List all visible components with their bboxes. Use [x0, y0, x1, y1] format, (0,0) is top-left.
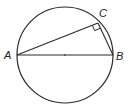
geometry-diagram: A B C: [0, 0, 133, 107]
segment-ac: [17, 23, 98, 55]
label-b: B: [116, 50, 123, 62]
center-point: [64, 54, 66, 56]
circle-diagram-svg: A B C: [0, 0, 133, 107]
label-c: C: [99, 7, 107, 19]
label-a: A: [3, 49, 11, 61]
